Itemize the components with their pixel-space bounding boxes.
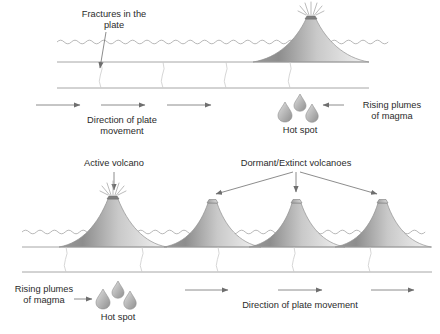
sea-surface-line-top — [57, 40, 388, 44]
crater-active-bottom — [107, 196, 119, 199]
dormant-extinct-leader-arrows — [216, 172, 377, 194]
fractures-label-line1: Fractures in the — [82, 9, 147, 19]
rising-plumes-label-bottom-line2: of magma — [23, 295, 65, 305]
crater-dormant-2 — [291, 200, 302, 204]
dormant-volcano-3 — [335, 203, 431, 247]
fractures-label-line2: plate — [104, 20, 124, 30]
hotspot-volcano-diagram: Fractures in the plate Direction of plat… — [0, 0, 440, 334]
plume-drop — [294, 94, 306, 111]
rising-plumes-label-top-line1: Rising plumes — [363, 100, 422, 110]
fracture-lines-bottom — [64, 247, 371, 272]
plume-drop — [112, 281, 124, 298]
rising-plumes-label-bottom-line1: Rising plumes — [15, 284, 74, 294]
magma-plumes-bottom — [96, 281, 136, 309]
active-volcano-label: Active volcano — [84, 158, 144, 168]
eruption-spray-top — [298, 2, 324, 15]
plate-movement-label-top-line2: movement — [100, 126, 144, 136]
top-panel: Fractures in the plate Direction of plat… — [36, 2, 422, 136]
active-volcano-bottom — [59, 199, 167, 247]
crater-top — [305, 16, 317, 19]
plate-movement-label-top-line1: Direction of plate — [87, 115, 157, 125]
plate-movement-label-bottom: Direction of plate movement — [242, 300, 358, 310]
dormant-volcano-2 — [249, 203, 345, 247]
fractures-leader-arrow — [100, 32, 106, 68]
diagram-canvas: Fractures in the plate Direction of plat… — [0, 0, 440, 334]
plume-drop — [124, 291, 136, 309]
dormant-volcano-1 — [164, 203, 261, 247]
dormant-extinct-label: Dormant/Extinct volcanoes — [241, 158, 352, 168]
fracture-lines-top — [99, 62, 291, 88]
plume-drop — [306, 104, 318, 122]
eruption-spray-bottom — [100, 181, 126, 195]
crater-dormant-3 — [377, 200, 388, 204]
magma-plumes-top — [278, 94, 318, 122]
hot-spot-label-top: Hot spot — [283, 125, 318, 135]
bottom-panel: Active volcano Dormant/Extinct volcanoes — [15, 158, 432, 322]
plume-drop — [278, 102, 292, 122]
plume-drop — [96, 289, 110, 309]
rising-plumes-label-top-line2: of magma — [371, 111, 413, 121]
hot-spot-label-bottom: Hot spot — [101, 312, 136, 322]
crater-dormant-1 — [207, 200, 218, 204]
active-volcano-top — [253, 19, 369, 62]
